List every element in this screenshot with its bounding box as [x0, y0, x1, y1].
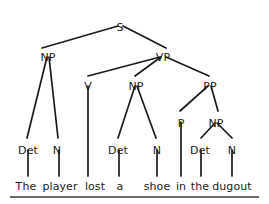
tree-node-np2: NP [128, 81, 143, 92]
terminal-word-w1: The [16, 181, 37, 192]
tree-edge-np1-to-n1 [49, 57, 58, 138]
tree-edge-np2-to-n2 [137, 86, 156, 138]
tree-node-n2: N [153, 145, 161, 156]
tree-edge-np1-to-det1 [27, 57, 47, 138]
tree-node-np3: NP [208, 118, 223, 129]
tree-node-p: P [178, 118, 185, 129]
terminal-word-w5: shoe [144, 181, 171, 192]
tree-node-vp: VP [156, 52, 170, 63]
tree-edge-s-to-vp [123, 26, 166, 48]
tree-node-det1: Det [18, 145, 38, 156]
syntax-tree-figure: SNPVPVNPPPPNPDetNDetNDetN Theplayerlosta… [0, 0, 269, 204]
terminal-word-w6: in [176, 181, 186, 192]
tree-edge-np2-to-det2 [118, 86, 135, 138]
terminal-word-w2: player [42, 181, 77, 192]
terminal-word-w4: a [117, 181, 124, 192]
terminal-word-w8: dugout [212, 181, 252, 192]
tree-edge-vp-to-pp [166, 57, 209, 76]
tree-node-det2: Det [108, 145, 128, 156]
tree-node-np1: NP [40, 52, 55, 63]
tree-node-det3: Det [190, 145, 210, 156]
tree-edge-s-to-np1 [42, 26, 118, 48]
tree-node-v: V [84, 81, 92, 92]
tree-node-n3: N [228, 145, 236, 156]
terminal-word-w7: the [191, 181, 209, 192]
terminal-word-w3: lost [85, 181, 105, 192]
tree-node-n1: N [53, 145, 61, 156]
tree-edges-layer [0, 0, 269, 204]
tree-node-s: S [116, 22, 123, 33]
tree-node-pp: PP [203, 81, 216, 92]
